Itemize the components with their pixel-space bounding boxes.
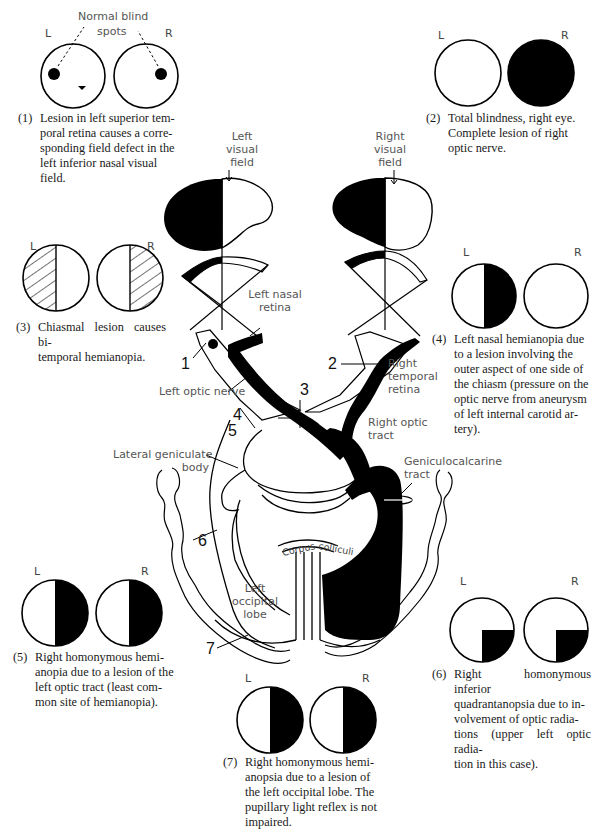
eye-label-left: L bbox=[245, 672, 251, 685]
caption-line: outer aspect of one side of bbox=[454, 362, 589, 377]
left-cortex-outline bbox=[157, 468, 290, 663]
label-lateral-geniculate-body: Lateral geniculate body bbox=[113, 448, 209, 474]
panel-6-caption: (6) Right homonymous inferior quadrantan… bbox=[454, 667, 591, 772]
panel-2-caption: (2) Total blindness, right eye. Complete… bbox=[448, 111, 588, 156]
caption-line: Lesion in left superior tem- bbox=[40, 111, 183, 126]
caption-line: of left internal carotid ar- bbox=[454, 407, 589, 422]
panel-number: (3) bbox=[16, 320, 30, 335]
caption-line: Total blindness, right eye. bbox=[448, 111, 588, 126]
caption-line: anopia due to a lesion of the bbox=[35, 665, 175, 680]
caption-line: optic nerve. bbox=[448, 141, 588, 156]
panel-7-fields bbox=[237, 687, 376, 753]
caption-line: poral retina causes a corre- bbox=[40, 126, 183, 141]
eye-label-left: L bbox=[463, 246, 469, 259]
eye-label-right: R bbox=[561, 29, 569, 42]
annotation-spots: spots bbox=[97, 25, 127, 38]
lesion-marker-1: 1 bbox=[181, 355, 190, 373]
caption-line: field. bbox=[40, 171, 183, 186]
eye-label-left: L bbox=[438, 29, 444, 42]
panel-number: (6) bbox=[432, 667, 446, 682]
caption-line: tions (upper left optic radia- bbox=[454, 727, 591, 757]
caption-line: anopsia due to a lesion of bbox=[245, 770, 383, 785]
panel-5-caption: (5) Right homonymous hemi- anopia due to… bbox=[35, 650, 175, 710]
panel-5-fields bbox=[22, 580, 162, 646]
label-colliculi: colliculi bbox=[318, 540, 355, 557]
eye-label-left: L bbox=[34, 565, 40, 578]
caption-line: Right homonymous hemi- bbox=[35, 650, 175, 665]
right-eye-optics bbox=[345, 247, 427, 336]
caption-line: volvement of optic radia- bbox=[454, 712, 591, 727]
lesion-marker-7: 7 bbox=[206, 640, 215, 658]
caption-line: sponding field defect in the bbox=[40, 141, 183, 156]
label-left-nasal-retina: Left nasal retina bbox=[242, 288, 308, 314]
lesion-marker-6: 6 bbox=[198, 532, 207, 550]
panel-number: (5) bbox=[13, 650, 27, 665]
caption-line: tion in this case). bbox=[454, 757, 591, 772]
panel-6-fields bbox=[450, 598, 588, 662]
lesion-marker-3: 3 bbox=[300, 381, 309, 399]
panel-3-fields bbox=[20, 242, 166, 314]
caption-line: Right homonymous hemi- bbox=[245, 755, 383, 770]
label-right-temporal-retina: Right temporal retina bbox=[388, 357, 438, 396]
panel-1-caption: (1) Lesion in left superior tem- poral r… bbox=[40, 111, 183, 186]
caption-line: Complete lesion of right bbox=[448, 126, 588, 141]
panel-2-fields bbox=[435, 40, 574, 106]
caption-line: the chiasm (pressure on the bbox=[454, 377, 589, 392]
caption-line: temporal hemianopia. bbox=[38, 350, 166, 365]
right-visual-field-shape bbox=[332, 170, 432, 250]
eye-label-left: L bbox=[45, 27, 51, 40]
label-left-optic-nerve: Left optic nerve bbox=[159, 385, 245, 398]
eye-label-right: R bbox=[141, 565, 149, 578]
panel-4-caption: (4) Left nasal hemianopia due to a lesio… bbox=[454, 332, 589, 437]
eye-label-right: R bbox=[574, 246, 582, 259]
caption-line: optic nerve from aneurysm bbox=[454, 392, 589, 407]
caption-line: tery). bbox=[454, 422, 589, 437]
caption-line: Left nasal hemianopia due bbox=[454, 332, 589, 347]
caption-line: impaired. bbox=[245, 815, 383, 830]
caption-line: pupillary light reflex is not bbox=[245, 800, 383, 815]
lesion-marker-2: 2 bbox=[328, 355, 337, 373]
label-geniculocalcarine-tract: Geniculocalcarine tract bbox=[404, 455, 502, 481]
panel-1-fields bbox=[41, 27, 178, 108]
caption-line: the left occipital lobe. The bbox=[245, 785, 383, 800]
panel-7-caption: (7) Right homonymous hemi- anopsia due t… bbox=[245, 755, 383, 830]
panel-4-fields bbox=[452, 264, 588, 328]
label-left-visual-field: Left visual field bbox=[222, 130, 262, 169]
eye-label-right: R bbox=[362, 672, 370, 685]
caption-line: quadrantanopsia due to in- bbox=[454, 697, 591, 712]
blind-spot-left bbox=[48, 68, 60, 80]
label-right-visual-field: Right visual field bbox=[369, 130, 411, 169]
eye-label-right: R bbox=[165, 27, 173, 40]
annotation-normal-blind: Normal blind bbox=[78, 10, 148, 23]
caption-line: Right homonymous inferior bbox=[454, 667, 591, 697]
eye-label-right: R bbox=[571, 575, 579, 588]
blind-spot-right bbox=[155, 68, 167, 80]
eye-label-left: L bbox=[30, 240, 36, 253]
panel-number: (1) bbox=[18, 111, 32, 126]
label-right-optic-tract: Right optic tract bbox=[368, 416, 428, 442]
caption-line: to a lesion involving the bbox=[454, 347, 589, 362]
panel-number: (7) bbox=[223, 755, 237, 770]
caption-line: mon site of hemianopia). bbox=[35, 695, 175, 710]
caption-line: Chiasmal lesion causes bi- bbox=[38, 320, 166, 350]
caption-line: left optic tract (least com- bbox=[35, 680, 175, 695]
panel-number: (2) bbox=[426, 111, 440, 126]
eye-label-left: L bbox=[460, 575, 466, 588]
panel-3-caption: (3) Chiasmal lesion causes bi- temporal … bbox=[38, 320, 166, 365]
caption-line: left inferior nasal visual bbox=[40, 156, 183, 171]
eye-label-right: R bbox=[147, 240, 155, 253]
panel-number: (4) bbox=[432, 332, 446, 347]
label-left-occipital-lobe: Left occipital lobe bbox=[230, 582, 280, 621]
lesion-marker-5: 5 bbox=[228, 422, 237, 440]
